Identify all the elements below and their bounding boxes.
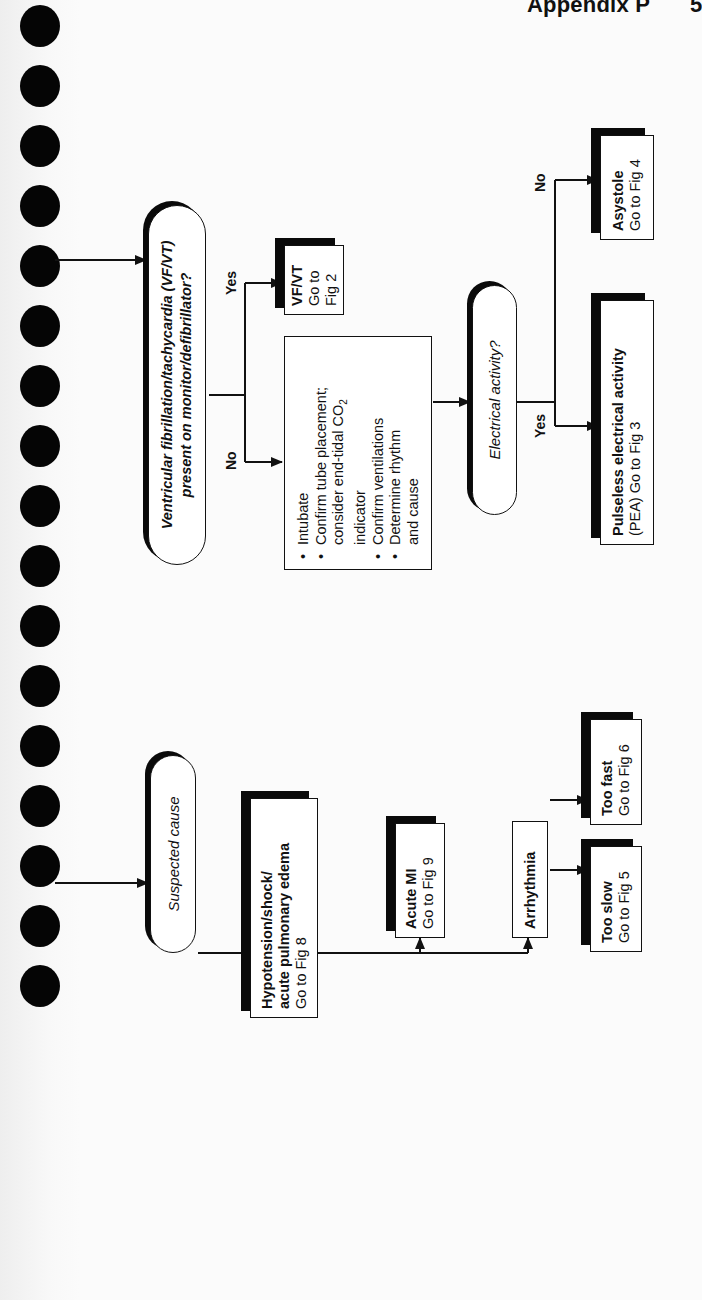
too-slow-title: Too slow bbox=[599, 855, 616, 943]
flowchart-stage: Ventricular fibrillation/tachycardia (VF… bbox=[0, 0, 702, 1300]
checklist-text: Confirm tube placement; bbox=[313, 387, 329, 545]
connector-lines bbox=[0, 0, 702, 1300]
vf-vt-sub: Go to Fig 2 bbox=[306, 254, 340, 306]
pea-title: Pulseless electrical activity bbox=[610, 309, 627, 536]
vf-vt-title: VF/VT bbox=[289, 254, 306, 306]
edge-label-yes: Yes bbox=[223, 271, 239, 295]
decision-vf-vt-line2: present on monitor/defibrillator? bbox=[177, 241, 196, 530]
bullet-icon: • bbox=[313, 554, 331, 559]
bullet-icon: • bbox=[295, 554, 313, 559]
vf-vt-box: VF/VT Go to Fig 2 bbox=[284, 245, 344, 315]
checklist-text: Confirm ventilations bbox=[370, 418, 386, 545]
acute-mi-box: Acute MI Go to Fig 9 bbox=[395, 823, 445, 938]
checklist-text: Intubate bbox=[295, 493, 311, 545]
checklist-text: consider end-tidal CO bbox=[330, 405, 346, 545]
checklist-item: •Confirm ventilations bbox=[370, 345, 388, 561]
pea-box: Pulseless electrical activity (PEA) Go t… bbox=[600, 300, 654, 545]
suspected-cause-text: Suspected cause bbox=[164, 796, 183, 911]
bullet-icon: • bbox=[387, 554, 405, 559]
asystole-title: Asystole bbox=[610, 144, 627, 231]
checklist-item: and cause bbox=[405, 345, 423, 561]
checklist-text: Determine rhythm bbox=[387, 430, 403, 545]
hypotension-title-1: Hypotension/shock/ bbox=[259, 807, 276, 1009]
hypotension-box: Hypotension/shock/ acute pulmonary edema… bbox=[250, 798, 318, 1018]
asystole-box: Asystole Go to Fig 4 bbox=[600, 135, 654, 240]
too-fast-box: Too fast Go to Fig 6 bbox=[590, 719, 642, 825]
too-fast-sub: Go to Fig 6 bbox=[616, 728, 633, 816]
checklist-text: indicator bbox=[352, 490, 368, 545]
checklist-item: •Determine rhythm bbox=[387, 345, 405, 561]
too-slow-sub: Go to Fig 5 bbox=[616, 855, 633, 943]
actions-box: •Intubate•Confirm tube placement;conside… bbox=[284, 336, 432, 570]
suspected-cause: Suspected cause bbox=[150, 755, 196, 953]
arrhythmia-box: Arrhythmia bbox=[512, 821, 548, 938]
too-slow-box: Too slow Go to Fig 5 bbox=[590, 846, 642, 952]
edge-label-electrical-yes: Yes bbox=[532, 414, 548, 438]
edge-label-no: No bbox=[223, 451, 239, 470]
checklist-text: and cause bbox=[405, 478, 421, 545]
decision-electrical-text: Electrical activity? bbox=[485, 340, 504, 459]
actions-checklist: •Intubate•Confirm tube placement;conside… bbox=[295, 345, 422, 561]
checklist-item: indicator bbox=[352, 345, 370, 561]
pea-sub: (PEA) Go to Fig 3 bbox=[627, 309, 644, 536]
bullet-icon: • bbox=[370, 554, 388, 559]
acute-mi-title: Acute MI bbox=[403, 832, 420, 929]
arrhythmia-text: Arrhythmia bbox=[522, 830, 539, 929]
hypotension-sub: Go to Fig 8 bbox=[293, 807, 310, 1009]
acute-mi-sub: Go to Fig 9 bbox=[420, 832, 437, 929]
co2-subscript: 2 bbox=[338, 399, 349, 405]
checklist-item: consider end-tidal CO2 bbox=[330, 345, 352, 561]
hypotension-title-2: acute pulmonary edema bbox=[276, 807, 293, 1009]
checklist-item: •Intubate bbox=[295, 345, 313, 561]
too-fast-title: Too fast bbox=[599, 728, 616, 816]
asystole-sub: Go to Fig 4 bbox=[627, 144, 644, 231]
decision-vf-vt-line1: Ventricular fibrillation/tachycardia (VF… bbox=[158, 241, 177, 530]
checklist-item: •Confirm tube placement; bbox=[313, 345, 331, 561]
edge-label-electrical-no: No bbox=[532, 173, 548, 192]
decision-electrical-activity: Electrical activity? bbox=[472, 285, 517, 515]
decision-vf-vt: Ventricular fibrillation/tachycardia (VF… bbox=[148, 205, 206, 565]
